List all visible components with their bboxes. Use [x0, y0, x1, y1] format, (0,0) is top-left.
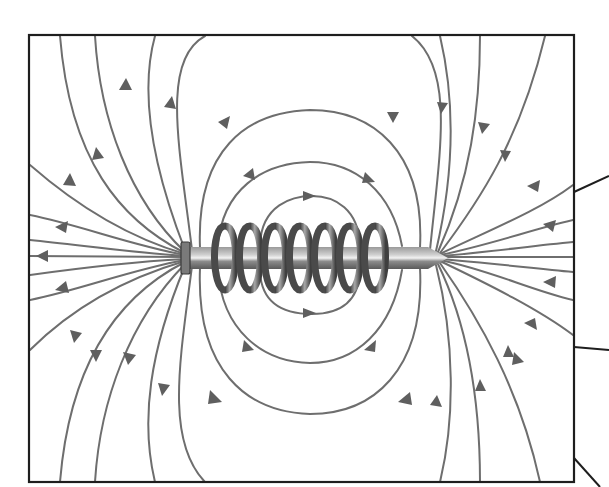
arrow-icon	[503, 345, 514, 357]
arrow-icon	[243, 168, 255, 180]
nail-head	[181, 242, 190, 274]
arrow-icon	[63, 173, 76, 186]
leader-line-3	[574, 458, 600, 487]
arrow-icon	[164, 96, 176, 109]
arrow-icon	[527, 180, 540, 192]
arrow-icon	[36, 250, 48, 262]
arrow-icon	[303, 191, 316, 201]
arrow-icon	[437, 102, 448, 114]
field-arrows	[36, 78, 556, 407]
leader-line-2	[574, 347, 609, 350]
electromagnet-field-diagram	[0, 0, 609, 487]
leader-lines	[574, 176, 609, 487]
arrow-icon	[70, 330, 82, 343]
arrow-icon	[218, 116, 230, 129]
arrow-icon	[119, 78, 132, 90]
arrow-icon	[303, 308, 316, 318]
arrow-icon	[475, 379, 486, 391]
arrow-icon	[55, 281, 69, 293]
arrow-icon	[478, 122, 490, 134]
leader-line-1	[574, 176, 609, 192]
arrow-icon	[512, 352, 524, 365]
arrow-icon	[362, 172, 375, 183]
arrow-icon	[208, 390, 222, 404]
arrow-icon	[543, 220, 556, 232]
field-arc-top-4r	[412, 36, 441, 250]
arrow-icon	[123, 352, 136, 365]
arrow-icon	[430, 395, 442, 407]
arrow-icon	[158, 383, 170, 396]
arrow-icon	[543, 276, 556, 288]
arrow-icon	[92, 147, 104, 160]
field-loop-bottom-3	[200, 268, 421, 414]
arrow-icon	[387, 112, 399, 123]
arrow-icon	[524, 318, 537, 330]
arrow-icon	[398, 392, 412, 405]
